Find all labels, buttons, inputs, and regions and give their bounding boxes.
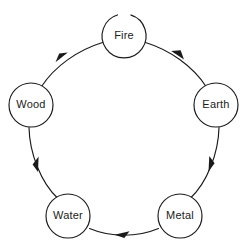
node-metal-label: Metal bbox=[166, 209, 194, 221]
edge-fire-to-earth-path bbox=[146, 43, 207, 87]
node-earth-label: Earth bbox=[202, 98, 229, 110]
edge-fire-to-earth bbox=[146, 43, 207, 87]
node-water-label: Water bbox=[53, 209, 83, 221]
node-earth[interactable]: Earth bbox=[194, 83, 238, 127]
edge-water-to-wood-arrowhead bbox=[33, 157, 39, 173]
edge-metal-to-water-arrowhead bbox=[115, 231, 130, 238]
edge-earth-to-metal-path bbox=[190, 128, 219, 199]
edge-wood-to-fire-path bbox=[42, 43, 103, 87]
node-wood-label: Wood bbox=[16, 98, 45, 110]
edge-water-to-wood bbox=[29, 128, 58, 199]
edge-metal-to-water bbox=[90, 229, 159, 239]
node-wood[interactable]: Wood bbox=[9, 83, 53, 127]
node-water[interactable]: Water bbox=[46, 194, 90, 238]
cycle-diagram-canvas: Fire Earth Metal Water Wood bbox=[0, 0, 247, 248]
node-fire[interactable]: Fire bbox=[102, 15, 146, 58]
node-metal[interactable]: Metal bbox=[158, 194, 202, 238]
edge-earth-to-metal bbox=[190, 128, 219, 199]
edge-water-to-wood-path bbox=[29, 128, 58, 199]
node-fire-label: Fire bbox=[114, 29, 134, 41]
edge-wood-to-fire bbox=[42, 43, 103, 87]
five-elements-cycle-diagram: Fire Earth Metal Water Wood bbox=[0, 0, 247, 248]
